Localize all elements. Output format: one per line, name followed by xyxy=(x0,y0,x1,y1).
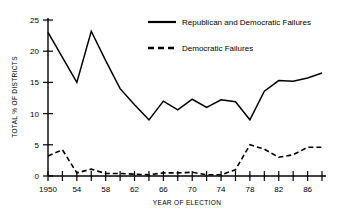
x-tick-label: 82 xyxy=(274,185,283,194)
x-axis-title: YEAR OF ELECTION xyxy=(153,199,221,206)
x-tick-label: 62 xyxy=(130,185,139,194)
legend-item-republican-and-democratic-failures: Republican and Democratic Failures xyxy=(148,18,311,27)
y-tick-label: 15 xyxy=(30,78,39,87)
axes-group xyxy=(48,18,326,176)
y-tick-label: 25 xyxy=(30,16,39,25)
line-chart: 0 5 10 15 20 25 1950545862667074788286 T… xyxy=(0,0,338,210)
x-tick-label: 70 xyxy=(188,185,197,194)
y-axis-title: TOTAL % OF DISTRICTS xyxy=(11,56,18,138)
x-tick-label: 66 xyxy=(159,185,168,194)
y-tick-label: 10 xyxy=(30,110,39,119)
x-tick-label: 1950 xyxy=(39,185,57,194)
legend: Republican and Democratic Failures Democ… xyxy=(148,18,311,53)
series-line-democratic-failures xyxy=(48,145,322,175)
x-tick-label: 58 xyxy=(101,185,110,194)
y-axis-tick-labels: 0 5 10 15 20 25 xyxy=(30,16,39,181)
legend-label: Republican and Democratic Failures xyxy=(182,18,311,27)
y-tick-label: 5 xyxy=(35,141,40,150)
y-tick-label: 0 xyxy=(35,172,40,181)
legend-label: Democratic Failures xyxy=(182,44,253,53)
x-tick-label: 86 xyxy=(303,185,312,194)
x-tick-label: 54 xyxy=(72,185,81,194)
chart-container: 0 5 10 15 20 25 1950545862667074788286 T… xyxy=(0,0,338,210)
x-axis-tick-labels: 1950545862667074788286 xyxy=(39,185,312,194)
x-tick-label: 74 xyxy=(217,185,226,194)
x-tick-label: 78 xyxy=(245,185,254,194)
legend-item-democratic-failures: Democratic Failures xyxy=(148,44,253,53)
y-tick-label: 20 xyxy=(30,47,39,56)
